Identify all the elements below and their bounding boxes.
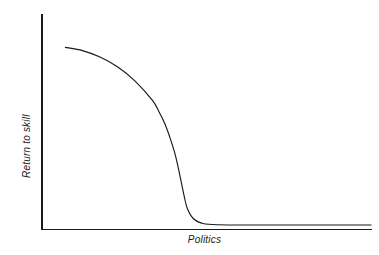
plot-area [0,0,379,255]
chart-figure: Politics Return to skill [0,0,379,255]
y-axis-label-text: Return to skill [21,114,32,178]
x-axis-label: Politics [0,234,379,245]
data-curve-return-to-skill [65,47,371,225]
